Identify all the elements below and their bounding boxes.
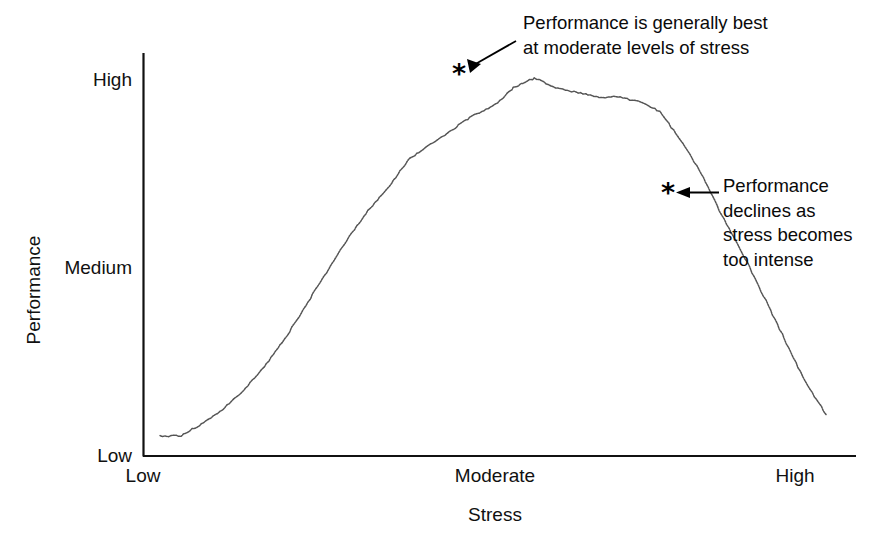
y-tick-low: Low — [12, 446, 132, 465]
decline-marker-asterisk-icon: * — [661, 179, 675, 206]
x-tick-low: Low — [73, 466, 213, 485]
peak-marker-asterisk-icon: * — [452, 60, 466, 87]
y-tick-high: High — [12, 70, 132, 89]
annotation-decline-text: Performance declines as stress becomes t… — [723, 174, 853, 272]
annotation-peak-text: Performance is generally best at moderat… — [523, 11, 768, 60]
chart-figure: High Medium Low Low Moderate High Stress… — [0, 0, 890, 546]
x-tick-high: High — [725, 466, 865, 485]
x-axis-title: Stress — [395, 505, 595, 524]
x-tick-moderate: Moderate — [425, 466, 565, 485]
y-axis-title: Performance — [24, 220, 43, 360]
annotation-arrow-peak — [467, 41, 516, 73]
